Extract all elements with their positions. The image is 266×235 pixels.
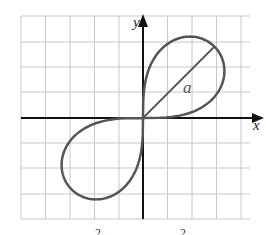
x-axis-label: x — [253, 117, 260, 134]
axes — [21, 24, 258, 219]
diameter-label: a — [183, 78, 192, 98]
lemniscate-diagram — [0, 0, 266, 235]
y-axis-label: y — [133, 14, 140, 31]
caption-fragment: 2 2 — [95, 226, 224, 235]
